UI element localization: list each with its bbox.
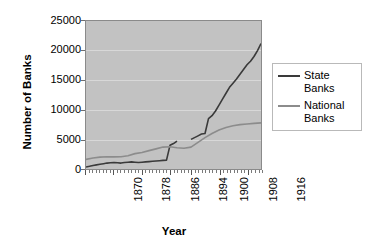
- x-tick-mark-major: [113, 170, 114, 175]
- x-tick-mark-minor: [96, 170, 97, 173]
- x-tick-mark-minor: [131, 170, 132, 173]
- legend-label-line1: State: [304, 69, 330, 81]
- x-tick-mark-minor: [202, 170, 203, 173]
- x-tick-mark-minor: [166, 170, 167, 173]
- x-tick-mark-minor: [110, 170, 111, 173]
- x-tick-mark-minor: [234, 170, 235, 173]
- chart-legend: State Banks National Banks: [272, 63, 362, 131]
- x-tick-mark-minor: [227, 170, 228, 173]
- x-tick-mark-minor: [237, 170, 238, 173]
- x-tick-mark-minor: [135, 170, 136, 173]
- legend-swatch-state-banks: [278, 75, 300, 77]
- x-tick-mark-minor: [244, 170, 245, 173]
- x-tick-mark-minor: [181, 170, 182, 173]
- x-tick-mark-minor: [89, 170, 90, 173]
- legend-label-state-banks: State Banks: [304, 69, 362, 95]
- x-tick-mark-major: [142, 170, 143, 175]
- x-tick-mark-minor: [262, 170, 263, 173]
- x-tick-mark-major: [170, 170, 171, 175]
- x-tick-mark-major: [248, 170, 249, 175]
- x-tick-mark-minor: [188, 170, 189, 173]
- x-tick-mark-minor: [184, 170, 185, 173]
- x-tick-mark-minor: [128, 170, 129, 173]
- x-tick-label: 1886: [189, 177, 201, 219]
- legend-label-line1: National: [304, 99, 344, 111]
- x-tick-label: 1900: [238, 177, 250, 219]
- legend-swatch-national-banks: [278, 105, 300, 107]
- x-tick-mark-minor: [251, 170, 252, 173]
- legend-label-national-banks: National Banks: [304, 99, 362, 125]
- x-tick-mark-minor: [209, 170, 210, 173]
- x-tick-mark-minor: [92, 170, 93, 173]
- x-tick-label: 1878: [160, 177, 172, 219]
- x-tick-mark-minor: [120, 170, 121, 173]
- x-tick-mark-major: [191, 170, 192, 175]
- x-tick-mark-minor: [212, 170, 213, 173]
- x-tick-mark-minor: [177, 170, 178, 173]
- x-tick-mark-minor: [198, 170, 199, 173]
- legend-label-line2: Banks: [304, 82, 335, 94]
- x-tick-mark-minor: [159, 170, 160, 173]
- x-tick-label: 1916: [295, 177, 307, 219]
- x-tick-mark-minor: [156, 170, 157, 173]
- x-tick-mark-minor: [205, 170, 206, 173]
- x-tick-mark-minor: [103, 170, 104, 173]
- x-tick-mark-minor: [149, 170, 150, 173]
- x-tick-label: 1870: [132, 177, 144, 219]
- x-tick-mark-minor: [124, 170, 125, 173]
- x-tick-mark-minor: [152, 170, 153, 173]
- x-tick-mark-minor: [230, 170, 231, 173]
- x-tick-mark-minor: [106, 170, 107, 173]
- x-tick-mark-minor: [117, 170, 118, 173]
- x-tick-mark-minor: [195, 170, 196, 173]
- x-tick-mark-minor: [163, 170, 164, 173]
- x-tick-mark-minor: [216, 170, 217, 173]
- x-tick-mark-minor: [174, 170, 175, 173]
- x-tick-mark-minor: [138, 170, 139, 173]
- x-tick-label: 1894: [217, 177, 229, 219]
- x-tick-mark-minor: [255, 170, 256, 173]
- bank-count-line-chart: Number of Banks 25000 20000 15000 10000 …: [0, 0, 367, 248]
- legend-item-national-banks: National Banks: [278, 99, 362, 125]
- x-tick-mark-minor: [259, 170, 260, 173]
- legend-label-line2: Banks: [304, 112, 335, 124]
- x-tick-mark-minor: [99, 170, 100, 173]
- legend-item-state-banks: State Banks: [278, 69, 362, 95]
- x-tick-mark-major: [220, 170, 221, 175]
- x-tick-mark-minor: [223, 170, 224, 173]
- x-tick-mark-major: [85, 170, 86, 175]
- x-tick-label: 1908: [267, 177, 279, 219]
- x-tick-mark-minor: [241, 170, 242, 173]
- x-axis-title: Year: [85, 225, 263, 237]
- x-tick-mark-minor: [145, 170, 146, 173]
